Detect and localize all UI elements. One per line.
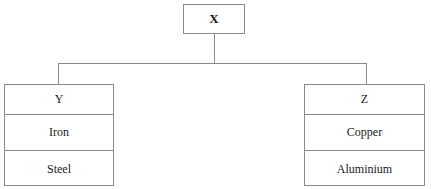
root-node-x: X xyxy=(183,4,245,34)
connector-left-branch-vertical xyxy=(58,63,59,85)
child-node-z-item-aluminium: Aluminium xyxy=(305,150,424,187)
child-node-z: Z Copper Aluminium xyxy=(304,84,425,186)
connector-horizontal-crossbar xyxy=(58,63,367,64)
diagram-canvas: X Y Iron Steel Z Copper Aluminium xyxy=(0,0,431,189)
child-node-y: Y Iron Steel xyxy=(4,84,114,186)
child-node-y-item-iron: Iron xyxy=(5,114,113,150)
connector-right-branch-vertical xyxy=(366,63,367,85)
child-node-y-header: Y xyxy=(5,85,113,114)
connector-trunk-vertical xyxy=(214,34,215,64)
child-node-z-item-copper: Copper xyxy=(305,114,424,150)
root-node-label: X xyxy=(184,5,244,33)
child-node-z-header: Z xyxy=(305,85,424,114)
child-node-y-item-steel: Steel xyxy=(5,150,113,187)
